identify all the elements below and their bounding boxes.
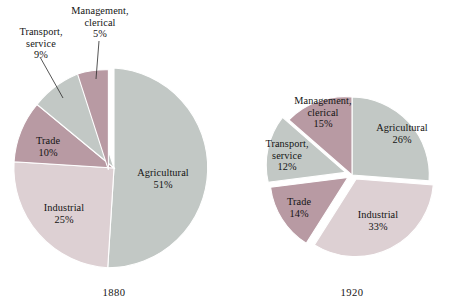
label-1920-transport-service: Transport, service 12% xyxy=(249,138,325,173)
year-label-1880: 1880 xyxy=(84,287,144,298)
label-1880-industrial: Industrial 25% xyxy=(26,202,102,225)
label-percent: 9% xyxy=(2,49,80,61)
label-text: Agricultural xyxy=(124,167,202,179)
label-text: clerical xyxy=(278,107,368,119)
label-percent: 25% xyxy=(26,214,102,226)
label-text: Trade xyxy=(17,135,79,147)
label-text: Trade xyxy=(269,196,329,208)
label-text: service xyxy=(249,150,325,162)
label-percent: 33% xyxy=(340,221,416,233)
label-1880-agricultural: Agricultural 51% xyxy=(124,167,202,190)
pie-chart-figure: Management, clerical 5% Transport, servi… xyxy=(0,0,468,308)
label-text: Industrial xyxy=(340,209,416,221)
label-text: Agricultural xyxy=(362,122,442,134)
label-1920-management-clerical: Management, clerical 15% xyxy=(278,95,368,130)
label-1880-transport-service: Transport, service 9% xyxy=(2,26,80,61)
label-percent: 15% xyxy=(278,118,368,130)
label-text: Industrial xyxy=(26,202,102,214)
label-text: Transport, xyxy=(249,138,325,150)
label-1920-trade: Trade 14% xyxy=(269,196,329,219)
label-text: service xyxy=(2,38,80,50)
label-percent: 12% xyxy=(249,161,325,173)
label-percent: 14% xyxy=(269,208,329,220)
label-percent: 26% xyxy=(362,134,442,146)
label-text: Management, xyxy=(48,5,152,17)
year-label-1920: 1920 xyxy=(322,287,382,298)
label-text: Management, xyxy=(278,95,368,107)
label-1920-agricultural: Agricultural 26% xyxy=(362,122,442,145)
label-percent: 51% xyxy=(124,179,202,191)
label-1920-industrial: Industrial 33% xyxy=(340,209,416,232)
label-text: Transport, xyxy=(2,26,80,38)
label-percent: 10% xyxy=(17,147,79,159)
label-1880-trade: Trade 10% xyxy=(17,135,79,158)
